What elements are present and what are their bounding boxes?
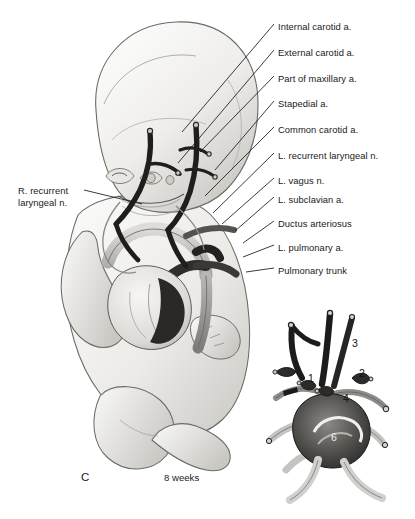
- label-stapedial-a: Stapedial a.: [278, 98, 328, 109]
- inset-number-1: 1: [308, 372, 314, 384]
- inset-number-4: 4: [343, 392, 349, 404]
- label-r-recurrent-laryngeal-n-line1: R. recurrent: [18, 185, 68, 196]
- label-external-carotid-a: External carotid a.: [278, 47, 355, 58]
- label-l-recurrent-laryngeal-n: L. recurrent laryngeal n.: [278, 150, 378, 161]
- label-common-carotid-a: Common carotid a.: [278, 124, 358, 135]
- inset-aortic-arch-schematic: [266, 310, 388, 500]
- label-r-recurrent-laryngeal-n-line2: laryngeal n.: [18, 197, 67, 208]
- panel-identifier: C: [81, 471, 89, 483]
- inset-number-2: 2: [359, 367, 365, 379]
- label-internal-carotid-a: Internal carotid a.: [278, 21, 351, 32]
- label-pulmonary-trunk: Pulmonary trunk: [278, 265, 347, 276]
- label-l-vagus-n: L. vagus n.: [278, 175, 324, 186]
- heart: [108, 266, 192, 350]
- label-l-subclavian-a: L. subclavian a.: [278, 194, 344, 205]
- figure-caption: 8 weeks: [164, 472, 199, 483]
- label-l-pulmonary-a: L. pulmonary a.: [278, 242, 343, 253]
- label-part-of-maxillary-a: Part of maxillary a.: [278, 73, 357, 84]
- inset-number-3: 3: [352, 337, 358, 349]
- inset-number-6: 6: [331, 431, 337, 443]
- label-ductus-arteriosus: Ductus arteriosus: [278, 218, 352, 229]
